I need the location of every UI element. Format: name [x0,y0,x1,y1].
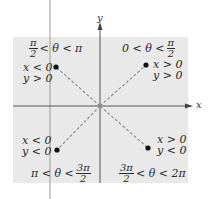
ray-quadrant-2 [56,67,100,106]
x-axis-label: x [196,99,202,110]
conditions-quadrant-4: x > 0 y < 0 [157,134,186,156]
fraction: 3π 2 [76,163,91,184]
range-quadrant-1: 0 < θ < π 2 [122,38,175,59]
fraction: 3π 2 [119,163,134,184]
range-quadrant-2: π 2 < θ < π [29,38,82,59]
point-quadrant-3 [54,147,59,152]
x-axis-arrow-icon [185,104,193,109]
conditions-quadrant-1: x > 0 y > 0 [153,59,182,81]
ray-quadrant-3 [57,106,100,150]
y-axis-label: y [97,12,103,23]
point-quadrant-1 [143,62,148,67]
range-quadrant-4: 3π 2 < θ < 2π [119,163,186,184]
ray-quadrant-4 [100,106,148,148]
point-quadrant-2 [53,64,58,69]
conditions-quadrant-2: x < 0 y > 0 [23,62,52,84]
conditions-quadrant-3: x < 0 y < 0 [22,135,51,157]
fraction: π 2 [29,38,38,59]
point-quadrant-4 [145,145,150,150]
range-quadrant-3: π < θ < 3π 2 [31,163,91,184]
fraction: π 2 [167,38,176,59]
y-axis-arrow-icon [98,22,103,30]
ray-quadrant-1 [100,65,146,106]
